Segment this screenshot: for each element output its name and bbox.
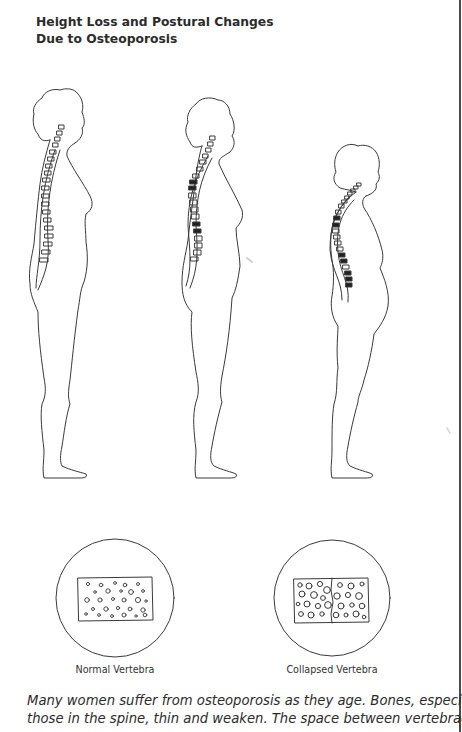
figure-3-vertebrae	[333, 183, 361, 287]
smudge-mark	[247, 258, 252, 262]
smudge-mark-edge	[447, 428, 450, 433]
normal-vertebra-circle	[56, 539, 174, 657]
figure-2-vertebrae	[189, 136, 215, 261]
severe-osteoporosis-figure	[330, 144, 388, 478]
collapsed-vertebra-fracture	[331, 578, 333, 623]
figure-2-spine-back	[186, 156, 208, 286]
collapsed-vertebra-inset	[274, 540, 390, 656]
normal-posture-figure	[29, 89, 92, 478]
figure-2-outline	[182, 98, 243, 478]
normal-vertebra-label: Normal Vertebra	[75, 664, 154, 675]
caption-text: Many women suffer from osteoporosis as t…	[27, 692, 457, 728]
caption-line-2: those in the spine, thin and weaken. The…	[27, 710, 457, 728]
figure-1-vertebrae	[40, 125, 64, 262]
normal-vertebra-pores	[85, 582, 148, 618]
figure-3-outline	[331, 144, 389, 478]
collapsed-vertebra-label: Collapsed Vertebra	[286, 664, 377, 675]
illustration	[0, 0, 462, 732]
caption-line-1: Many women suffer from osteoporosis as t…	[27, 692, 457, 710]
figure-1-outline	[29, 89, 92, 478]
moderate-osteoporosis-figure	[182, 98, 243, 478]
normal-vertebra-inset	[56, 539, 174, 657]
